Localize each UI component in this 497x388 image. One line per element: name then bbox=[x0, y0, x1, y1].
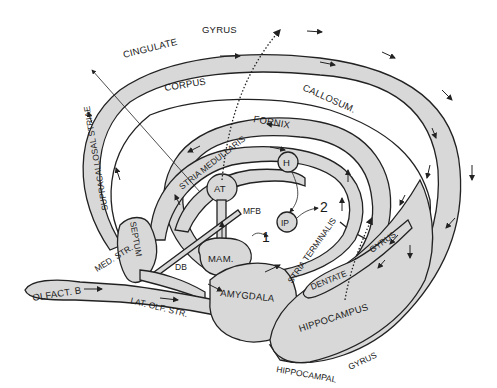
hippocampal-label: HIPPOCAMPAL bbox=[276, 364, 338, 384]
output-1-label: 1 bbox=[262, 229, 270, 245]
mam-label: MAM. bbox=[208, 253, 234, 264]
mfb-label: MFB bbox=[243, 206, 261, 216]
gyrus-bottom-label: GYRUS bbox=[347, 350, 379, 372]
output-2-label: 2 bbox=[320, 199, 328, 215]
habenula-label: H bbox=[283, 157, 290, 168]
ip-label: IP bbox=[281, 218, 289, 228]
cingulate-label: CINGULATE bbox=[122, 36, 178, 60]
at-label: AT bbox=[214, 183, 226, 194]
gyrus-top-label: GYRUS bbox=[202, 24, 237, 35]
ip-to-2-path bbox=[297, 208, 318, 218]
limbic-system-diagram: H AT MAM. MFB IP 2 1 SEPTUM DB OLFACT. B… bbox=[0, 0, 497, 388]
db-label: DB bbox=[175, 262, 187, 272]
